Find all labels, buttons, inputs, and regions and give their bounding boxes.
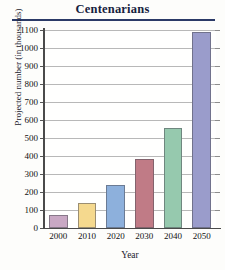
x-tick-label: 2030: [135, 231, 153, 241]
y-tick-mark-right: [215, 156, 220, 157]
gridline: [44, 174, 216, 175]
bar-2000: [49, 215, 68, 229]
y-tick-label: 900: [25, 61, 39, 71]
gridline: [44, 192, 216, 193]
y-tick-mark-right: [215, 102, 220, 103]
gridline: [44, 66, 216, 67]
x-tick-label: 2040: [164, 231, 182, 241]
y-tick-label: 1000: [20, 43, 38, 53]
page-title: Centenarians: [0, 2, 225, 17]
y-tick-mark-right: [215, 138, 220, 139]
bar-2030: [135, 159, 154, 228]
gridline: [44, 138, 216, 139]
x-tick-label: 2000: [49, 231, 67, 241]
y-tick-label: 800: [25, 79, 39, 89]
x-axis-line: [43, 228, 221, 230]
x-axis-label: Year: [40, 250, 220, 260]
bar-2010: [78, 203, 97, 228]
y-tick-label: 100: [25, 205, 39, 215]
x-tick-label: 2010: [78, 231, 96, 241]
y-tick-label: 300: [25, 169, 39, 179]
y-tick-mark-right: [215, 84, 220, 85]
chart-figure: Centenarians Projected number (in thousa…: [0, 0, 225, 270]
y-tick-label: 400: [25, 151, 39, 161]
y-tick-mark-right: [215, 30, 220, 31]
y-tick-mark-right: [215, 120, 220, 121]
y-tick-mark-right: [215, 48, 220, 49]
gridline: [44, 120, 216, 121]
bar-2020: [106, 185, 125, 228]
x-tick-label: 2020: [107, 231, 125, 241]
y-tick-label: 600: [25, 115, 39, 125]
gridline: [44, 30, 216, 31]
y-axis-line: [43, 28, 45, 228]
y-axis-label: Projected number (in thousands): [13, 0, 23, 147]
gridline: [44, 48, 216, 49]
bar-2040: [164, 128, 183, 228]
gridline: [44, 156, 216, 157]
gridline: [44, 102, 216, 103]
y-tick-label: 0: [34, 223, 39, 233]
gridline: [44, 84, 216, 85]
y-tick-label: 200: [25, 187, 39, 197]
y-tick-label: 700: [25, 97, 39, 107]
y-tick-label: 500: [25, 133, 39, 143]
y-tick-label: 1100: [20, 25, 38, 35]
gridline: [44, 210, 216, 211]
title-divider: [12, 19, 215, 21]
y-tick-mark-right: [215, 192, 220, 193]
plot-area: 010020030040050060070080090010001100 200…: [44, 30, 216, 228]
y-tick-mark-right: [215, 66, 220, 67]
y-tick-mark-right: [215, 210, 220, 211]
bar-2050: [192, 32, 211, 228]
plot-background: [44, 30, 216, 228]
x-tick-label: 2050: [193, 231, 211, 241]
y-tick-mark-right: [215, 174, 220, 175]
